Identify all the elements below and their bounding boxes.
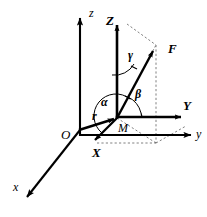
axis-Y-line: [117, 117, 181, 118]
axis-y-line: [80, 128, 191, 135]
axis-Z-label: Z: [106, 14, 114, 27]
arc-gamma: [112, 64, 134, 75]
axis-y-label: y: [196, 128, 201, 140]
axis-x-label: x: [13, 181, 18, 193]
vector-F-label: F: [168, 42, 177, 55]
axis-Y-label: Y: [183, 99, 191, 112]
vector-F-line: [117, 51, 153, 118]
angle-alpha-label: α: [101, 96, 108, 108]
guide-z-to-corner: [127, 24, 156, 45]
angle-gamma-label: γ: [128, 49, 133, 61]
point-m-label: M: [118, 122, 128, 134]
axis-X-label: X: [92, 146, 101, 159]
global-axes: [27, 18, 191, 197]
angle-beta-label: β: [135, 88, 141, 100]
axis-x-line: [27, 130, 80, 197]
axis-z-label: z: [89, 7, 94, 19]
vector-r-label: r: [92, 110, 97, 122]
vector-F: [117, 51, 153, 118]
origin-label: O: [61, 128, 70, 141]
figure-root: z y x O Z Y X M r F α β γ: [0, 0, 207, 217]
